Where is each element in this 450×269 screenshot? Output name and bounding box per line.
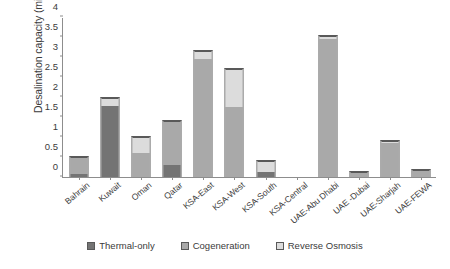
y-tick-label: 2.5 (45, 61, 63, 72)
legend-item-thermal[interactable]: Thermal-only (87, 240, 154, 251)
chart-legend: Thermal-onlyCogenerationReverse Osmosis (0, 240, 450, 251)
bar-segment-cogen (164, 121, 181, 165)
x-axis-label: Kuwait (96, 180, 122, 204)
bar-segment-cogen (226, 107, 243, 177)
stacked-bar[interactable] (412, 169, 431, 177)
bar-segment-ro (101, 98, 118, 106)
bar-segment-ro (195, 51, 212, 59)
bar-segment-thermal (164, 165, 181, 177)
x-axis-label: KSA-East (181, 180, 215, 211)
y-tick-label: 4 (53, 1, 63, 12)
x-axis-label: Qatar (162, 180, 185, 201)
bar-slot (125, 18, 156, 177)
bar-group (63, 18, 436, 177)
bar-segment-cogen (195, 59, 212, 177)
bar-slot (188, 18, 219, 177)
legend-item-cogen[interactable]: Cogeneration (181, 240, 250, 251)
y-tick-label: 0.5 (45, 141, 63, 152)
y-tick-label: 1 (53, 121, 63, 132)
legend-label: Reverse Osmosis (288, 240, 363, 251)
bar-segment-cogen (319, 39, 336, 177)
bar-segment-thermal (101, 106, 118, 177)
x-axis-labels: BahrainKuwaitOmanQatarKSA-EastKSA-WestKS… (62, 180, 436, 235)
bar-segment-cogen (70, 157, 87, 174)
plot-area: 00.511.522.533.54 (62, 18, 436, 178)
bar-slot (250, 18, 281, 177)
stacked-bar[interactable] (131, 136, 150, 177)
stacked-bar[interactable] (163, 120, 182, 177)
legend-label: Cogeneration (193, 240, 250, 251)
legend-swatch-ro-icon (276, 242, 284, 250)
bar-segment-cogen (132, 153, 149, 177)
bar-segment-ro (226, 69, 243, 107)
bar-slot (312, 18, 343, 177)
stacked-bar[interactable] (256, 160, 275, 177)
legend-label: Thermal-only (99, 240, 154, 251)
bar-slot (375, 18, 406, 177)
stacked-bar[interactable] (100, 97, 119, 177)
stacked-bar[interactable] (194, 50, 213, 177)
bar-segment-cogen (382, 143, 399, 177)
legend-item-ro[interactable]: Reverse Osmosis (276, 240, 363, 251)
stacked-bar[interactable] (381, 140, 400, 177)
y-tick-label: 2 (53, 81, 63, 92)
y-axis-title-wrap: Desalination capacity (million m³/day) (8, 10, 26, 186)
bar-slot (63, 18, 94, 177)
stacked-bar[interactable] (69, 156, 88, 177)
y-tick-mark (60, 16, 63, 17)
stacked-bar[interactable] (318, 35, 337, 177)
y-axis-title: Desalination capacity (million m³/day) (32, 0, 44, 116)
x-axis-label: Bahrain (62, 180, 91, 206)
bar-slot (94, 18, 125, 177)
bar-slot (406, 18, 437, 177)
y-tick-label: 3 (53, 41, 63, 52)
stacked-bar[interactable] (225, 68, 244, 177)
bar-slot (281, 18, 312, 177)
y-tick-label: 3.5 (45, 21, 63, 32)
bar-segment-ro (132, 137, 149, 153)
bar-segment-ro (257, 161, 274, 172)
y-tick-label: 0 (53, 161, 63, 172)
desalination-capacity-chart: Desalination capacity (million m³/day) 0… (0, 0, 450, 269)
bar-slot (219, 18, 250, 177)
bar-slot (157, 18, 188, 177)
x-axis-label: Oman (129, 180, 153, 202)
y-tick-label: 1.5 (45, 101, 63, 112)
legend-swatch-thermal-icon (87, 242, 95, 250)
bar-slot (344, 18, 375, 177)
legend-swatch-cogen-icon (181, 242, 189, 250)
